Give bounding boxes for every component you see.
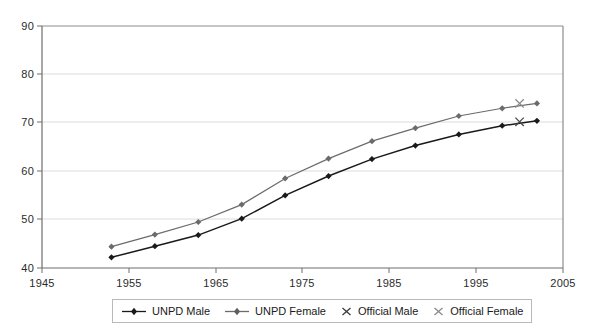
legend-item-official-male[interactable]: Official Male: [340, 306, 418, 317]
plot-frame: [42, 26, 563, 268]
data-point-marker: [108, 254, 114, 260]
x-axis-tick-marks: [42, 268, 563, 273]
data-point-marker: [239, 201, 245, 207]
y-tick-label: 50: [8, 213, 34, 225]
data-point-marker: [456, 113, 462, 119]
legend-label: Official Male: [358, 306, 418, 317]
cross-marker-icon: [432, 306, 445, 317]
line-diamond-marker-icon: [224, 306, 250, 317]
series-unpd-male: [108, 118, 540, 261]
data-series-layer: [108, 99, 540, 260]
series-line: [111, 103, 536, 246]
data-point-marker: [534, 118, 540, 124]
data-point-marker: [282, 192, 288, 198]
data-point-marker: [412, 125, 418, 131]
legend-label: UNPD Male: [152, 306, 210, 317]
data-point-marker: [534, 100, 540, 106]
x-tick-label: 1945: [20, 277, 64, 289]
data-point-marker: [152, 243, 158, 249]
data-point-marker: [325, 156, 331, 162]
data-point-marker: [499, 123, 505, 129]
y-tick-label: 60: [8, 165, 34, 177]
series-unpd-female: [108, 100, 540, 249]
series-line: [111, 121, 536, 257]
y-tick-label: 80: [8, 68, 34, 80]
x-tick-label: 1995: [454, 277, 498, 289]
data-point-marker: [239, 216, 245, 222]
line-diamond-marker-icon: [121, 306, 147, 317]
data-point-marker: [456, 131, 462, 137]
y-axis-tick-marks: [37, 26, 42, 268]
y-tick-label: 90: [8, 20, 34, 32]
legend-label: Official Female: [450, 306, 523, 317]
data-point-marker: [108, 244, 114, 250]
data-point-marker: [282, 175, 288, 181]
legend-label: UNPD Female: [255, 306, 326, 317]
data-point-marker: [195, 219, 201, 225]
chart-container: 90 80 70 60 50 40 1945 1955 1965 1975 19…: [0, 0, 601, 335]
chart-legend: UNPD Male UNPD Female Official Male: [112, 299, 532, 323]
data-point-marker: [499, 105, 505, 111]
x-tick-label: 1965: [194, 277, 238, 289]
x-tick-label: 2005: [541, 277, 585, 289]
x-tick-label: 1955: [107, 277, 151, 289]
cross-marker-icon: [340, 306, 353, 317]
legend-item-unpd-female[interactable]: UNPD Female: [224, 306, 326, 317]
y-tick-label: 40: [8, 262, 34, 274]
gridlines: [42, 26, 563, 219]
data-point-marker: [152, 232, 158, 238]
legend-item-official-female[interactable]: Official Female: [432, 306, 523, 317]
data-point-marker: [195, 232, 201, 238]
data-point-marker: [325, 173, 331, 179]
data-point-marker: [369, 138, 375, 144]
x-tick-label: 1985: [367, 277, 411, 289]
legend-item-unpd-male[interactable]: UNPD Male: [121, 306, 210, 317]
x-tick-label: 1975: [280, 277, 324, 289]
y-tick-label: 70: [8, 116, 34, 128]
data-point-marker: [412, 142, 418, 148]
data-point-marker: [369, 156, 375, 162]
